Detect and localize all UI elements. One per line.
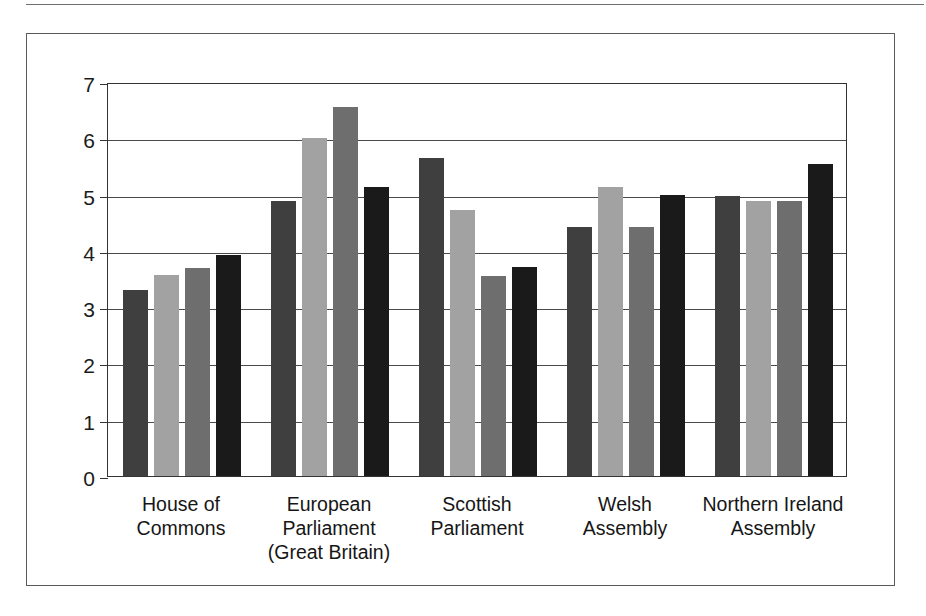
bar-chart: 01234567 House of CommonsEuropean Parlia… — [27, 34, 896, 587]
bar — [629, 227, 654, 476]
bar — [450, 210, 475, 476]
y-axis-tick-label: 6 — [83, 130, 95, 151]
y-axis-tick — [100, 309, 108, 310]
bar — [777, 201, 802, 476]
bar — [567, 227, 592, 476]
bar — [185, 268, 210, 476]
page-top-rule — [26, 4, 924, 5]
x-axis-category-label: Northern Ireland Assembly — [679, 493, 867, 541]
bar — [419, 158, 444, 476]
plot-area: 01234567 — [107, 83, 847, 477]
bar — [302, 138, 327, 476]
y-axis-tick-label: 5 — [83, 186, 95, 207]
y-axis-tick-label: 0 — [83, 468, 95, 489]
figure-frame: 01234567 House of CommonsEuropean Parlia… — [26, 33, 895, 586]
gridline — [108, 140, 846, 141]
y-axis-tick — [100, 197, 108, 198]
y-axis-tick — [100, 422, 108, 423]
bar — [216, 255, 241, 476]
y-axis-tick — [100, 84, 108, 85]
bar — [512, 267, 537, 476]
bar — [481, 276, 506, 476]
y-axis-tick-label: 4 — [83, 242, 95, 263]
bar — [715, 196, 740, 476]
bar — [808, 164, 833, 476]
bar — [333, 107, 358, 476]
bar — [598, 187, 623, 476]
bar — [154, 275, 179, 477]
y-axis-tick-label: 7 — [83, 74, 95, 95]
bar — [364, 187, 389, 476]
y-axis-tick-label: 3 — [83, 299, 95, 320]
bar — [271, 201, 296, 476]
y-axis-tick — [100, 365, 108, 366]
y-axis-tick — [100, 478, 108, 479]
bar — [660, 195, 685, 476]
y-axis-tick — [100, 140, 108, 141]
y-axis-tick — [100, 253, 108, 254]
bar — [123, 290, 148, 476]
bar — [746, 201, 771, 476]
y-axis-tick-label: 2 — [83, 355, 95, 376]
y-axis-tick-label: 1 — [83, 411, 95, 432]
